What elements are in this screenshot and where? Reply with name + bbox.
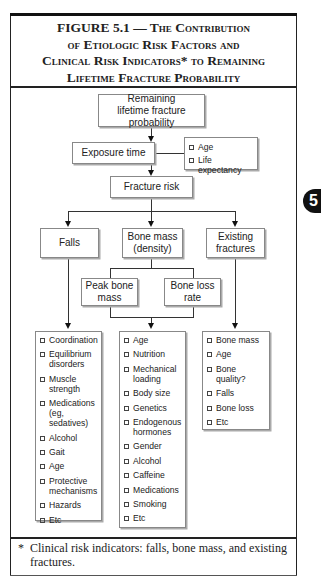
bone-mass-factors-list: Age Nutrition Mechanical loading Body si… [119, 331, 186, 528]
list-item: Age [207, 349, 266, 359]
list-item: Etc [124, 513, 182, 523]
arrow-down-icon [148, 221, 154, 227]
connector [68, 211, 236, 212]
list-item: Equilibrium disorders [40, 349, 98, 369]
list-item: Caffeine [124, 470, 182, 480]
node-label: Fracture risk [124, 181, 180, 193]
list-item: Gait [40, 447, 98, 457]
connector [110, 268, 111, 278]
list-item: Bone quality? [207, 364, 266, 384]
node-label: Exposure time [82, 147, 146, 159]
list-item: Life expectancy [189, 155, 254, 175]
title-line: of Etiologic Risk Factors and [10, 37, 297, 54]
node-label: Remaining lifetime fracture probability [112, 93, 192, 129]
existing-fractures-factors-list: Bone mass Age Bone quality? Falls Bone l… [202, 331, 270, 430]
node-label: Bone mass (density) [125, 231, 181, 255]
exposure-factors-list: Age Life expectancy [184, 137, 258, 170]
footnote-marker: * [18, 541, 24, 555]
list-item: Medications [124, 485, 182, 495]
node-label: Existing fractures [210, 231, 262, 255]
arrow-down-icon [148, 323, 154, 329]
node-label: Peak bone mass [84, 280, 136, 304]
list-item: Age [189, 142, 254, 152]
list-item: Body size [124, 388, 182, 398]
figure-top-rule [10, 13, 297, 16]
footnote-text: Clinical risk indicators: falls, bone ma… [30, 541, 287, 569]
list-item: Nutrition [124, 349, 182, 359]
list-item: Falls [207, 388, 266, 398]
list-item: Hazards [40, 500, 98, 510]
node-falls: Falls [40, 228, 99, 258]
figure-title: FIGURE 5.1 — The Contribution of Etiolog… [10, 20, 297, 86]
title-line: FIGURE 5.1 — The Contribution [10, 20, 297, 37]
footnote-divider [10, 537, 297, 539]
connector [235, 258, 236, 324]
list-item: Endogenous hormones [124, 417, 182, 437]
node-label: Falls [59, 237, 80, 249]
node-bone-loss-rate: Bone loss rate [164, 278, 221, 306]
node-peak-bone-mass: Peak bone mass [81, 278, 138, 306]
node-remaining-probability: Remaining lifetime fracture probability [98, 94, 205, 127]
bottom-rule [10, 575, 297, 576]
node-existing-fractures: Existing fractures [206, 228, 265, 258]
connector [110, 268, 194, 269]
node-label: Bone loss rate [170, 280, 216, 304]
chapter-tab: 5 [303, 189, 321, 213]
list-item: Coordination [40, 335, 98, 345]
title-line: Clinical Risk Indicators* to Remaining [10, 53, 297, 70]
list-item: Alcohol [124, 456, 182, 466]
list-item: Medications (eg, sedatives) [40, 398, 98, 428]
connector [68, 258, 69, 324]
list-item: Gender [124, 441, 182, 451]
arrow-down-icon [232, 323, 238, 329]
footnote: * Clinical risk indicators: falls, bone … [18, 541, 290, 569]
falls-factors-list: Coordination Equilibrium disorders Muscl… [35, 331, 102, 521]
node-bone-mass: Bone mass (density) [122, 228, 183, 258]
list-item: Alcohol [40, 433, 98, 443]
list-item: Etc [207, 417, 266, 427]
connector [193, 268, 194, 278]
list-item: Age [40, 461, 98, 471]
list-item: Etc [40, 515, 98, 525]
node-exposure-time: Exposure time [72, 142, 155, 164]
list-item: Mechanical loading [124, 364, 182, 384]
list-item: Age [124, 335, 182, 345]
title-divider [10, 86, 297, 88]
list-item: Bone loss [207, 403, 266, 413]
arrow-down-icon [232, 221, 238, 227]
title-line: Lifetime Fracture Probability [10, 70, 297, 87]
connector [151, 198, 152, 221]
connector [155, 153, 184, 154]
list-item: Smoking [124, 499, 182, 509]
arrow-down-icon [65, 221, 71, 227]
node-fracture-risk: Fracture risk [110, 176, 193, 198]
list-item: Genetics [124, 403, 182, 413]
list-item: Muscle strength [40, 374, 98, 394]
connector [110, 317, 194, 318]
list-item: Protective mechanisms [40, 476, 98, 496]
list-item: Bone mass [207, 335, 266, 345]
arrow-down-icon [65, 323, 71, 329]
